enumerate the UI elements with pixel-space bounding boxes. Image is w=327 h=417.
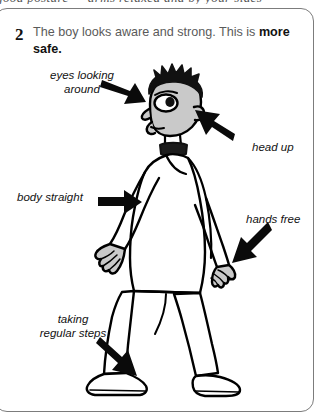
annotation-label-body-straight: body straight xyxy=(17,190,107,204)
annotation-arrows xyxy=(0,0,327,417)
arrow-head-up xyxy=(195,110,235,141)
annotation-label-taking-regular-steps: taking regular steps xyxy=(23,312,123,340)
arrow-hands-free xyxy=(232,222,272,263)
annotation-label-hands-free: hands free xyxy=(246,212,324,226)
arrow-taking-regular-steps xyxy=(96,337,137,376)
annotation-label-head-up: head up xyxy=(252,140,322,154)
annotation-label-eyes-looking-around: eyes looking around xyxy=(36,68,128,96)
